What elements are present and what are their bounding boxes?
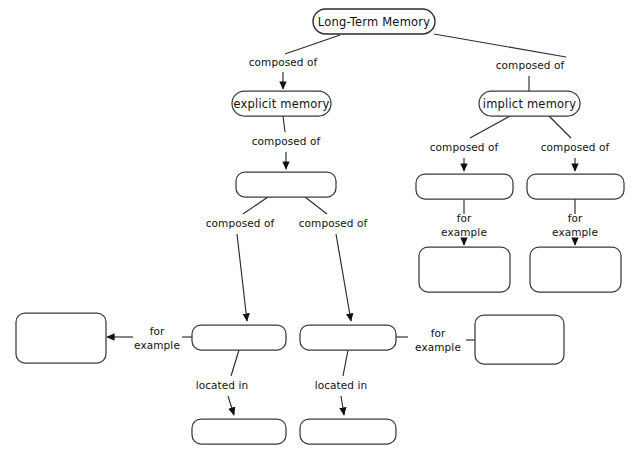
node-blank-right-example[interactable] xyxy=(475,315,564,364)
node-blank-right-example-shape[interactable] xyxy=(475,315,564,364)
node-explicit-memory-label: explicit memory xyxy=(233,97,329,111)
edge-m1-to-b1 xyxy=(231,350,239,376)
edge-blank-mid-to-m2-arrow xyxy=(336,234,351,321)
node-blank-right-2-example[interactable] xyxy=(530,247,621,292)
edge-blank-mid-to-m1-arrow xyxy=(237,234,247,321)
edge-label-composed-of-2: composed of xyxy=(496,59,565,71)
node-blank-bottom-1[interactable] xyxy=(192,419,286,444)
node-blank-right-2[interactable] xyxy=(527,174,624,199)
svg-text:for: for xyxy=(431,327,446,339)
node-implicit-memory[interactable]: implict memory xyxy=(479,91,580,116)
svg-text:for: for xyxy=(568,212,583,224)
node-blank-bottom-2[interactable] xyxy=(300,419,396,444)
node-blank-mid-lower-2[interactable] xyxy=(300,325,396,350)
edge-root-to-implicit xyxy=(434,34,566,57)
edge-label-for-example-4: for example xyxy=(415,327,461,353)
svg-text:example: example xyxy=(552,226,598,238)
svg-text:for: for xyxy=(457,212,472,224)
edge-m2-to-b2-arrow xyxy=(341,396,344,415)
edge-label-composed-of-4: composed of xyxy=(430,141,499,153)
edge-label-composed-of-1: composed of xyxy=(249,56,318,68)
node-blank-bottom-2-shape[interactable] xyxy=(300,419,396,444)
edge-m2-to-b2 xyxy=(343,350,348,376)
node-long-term-memory[interactable]: Long-Term Memory xyxy=(313,9,435,34)
node-blank-right-1-example-shape[interactable] xyxy=(419,247,510,292)
edge-implicit-to-blank-r2 xyxy=(549,116,571,138)
node-blank-mid-lower-1-shape[interactable] xyxy=(192,325,286,350)
node-blank-middle[interactable] xyxy=(236,172,336,197)
node-long-term-memory-label: Long-Term Memory xyxy=(318,15,430,29)
node-blank-right-1-shape[interactable] xyxy=(416,174,513,199)
concept-map-canvas: composed of composed of composed of comp… xyxy=(0,0,643,463)
edge-root-to-explicit xyxy=(285,35,340,54)
svg-text:example: example xyxy=(441,226,487,238)
edge-label-located-in-2: located in xyxy=(315,379,368,391)
edge-label-composed-of-5: composed of xyxy=(541,141,610,153)
svg-text:example: example xyxy=(415,341,461,353)
edge-blank-mid-to-m1 xyxy=(243,197,268,214)
svg-text:example: example xyxy=(134,339,180,351)
node-blank-right-2-example-shape[interactable] xyxy=(530,247,621,292)
edge-label-composed-of-7: composed of xyxy=(299,217,368,229)
edge-m1-to-b1-arrow xyxy=(228,396,234,415)
edge-implicit-to-blank-r1 xyxy=(470,116,510,138)
node-blank-right-2-shape[interactable] xyxy=(527,174,624,199)
node-blank-mid-lower-1[interactable] xyxy=(192,325,286,350)
edge-label-for-example-1: for example xyxy=(441,212,487,238)
edge-label-for-example-3: for example xyxy=(134,325,180,351)
edge-label-for-example-2: for example xyxy=(552,212,598,238)
node-blank-left-example[interactable] xyxy=(16,313,106,363)
edge-label-located-in-1: located in xyxy=(196,379,249,391)
node-blank-right-1[interactable] xyxy=(416,174,513,199)
node-blank-mid-lower-2-shape[interactable] xyxy=(300,325,396,350)
node-blank-left-example-shape[interactable] xyxy=(16,313,106,363)
edge-label-composed-of-3: composed of xyxy=(252,135,321,147)
edge-blank-mid-to-m2 xyxy=(305,197,327,214)
node-implicit-memory-label: implict memory xyxy=(483,97,576,111)
node-explicit-memory[interactable]: explicit memory xyxy=(232,91,331,116)
node-blank-middle-shape[interactable] xyxy=(236,172,336,197)
edge-label-composed-of-6: composed of xyxy=(206,217,275,229)
edge-explicit-to-blank-mid-upper xyxy=(283,116,285,132)
node-blank-bottom-1-shape[interactable] xyxy=(192,419,286,444)
node-blank-right-1-example[interactable] xyxy=(419,247,510,292)
svg-text:for: for xyxy=(150,325,165,337)
